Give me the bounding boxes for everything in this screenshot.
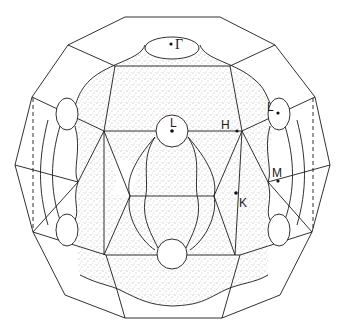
label-k: K xyxy=(239,196,247,210)
l-point-right xyxy=(276,111,279,114)
gamma-neck xyxy=(145,37,199,59)
neck-left-bottom xyxy=(56,214,78,246)
neck-left-top xyxy=(56,98,78,130)
neck-center-bottom xyxy=(157,239,187,269)
h-point xyxy=(235,129,238,132)
k-point xyxy=(234,191,238,195)
neck-right-bottom xyxy=(268,214,290,246)
label-l-right: L xyxy=(267,100,274,114)
label-h: H xyxy=(221,118,230,132)
gamma-point xyxy=(169,42,172,45)
label-l-center: L xyxy=(170,116,177,130)
label-gamma: Γ xyxy=(175,37,183,52)
label-m: M xyxy=(272,166,282,180)
brillouin-zone-diagram: Γ L H L K M xyxy=(0,0,345,333)
